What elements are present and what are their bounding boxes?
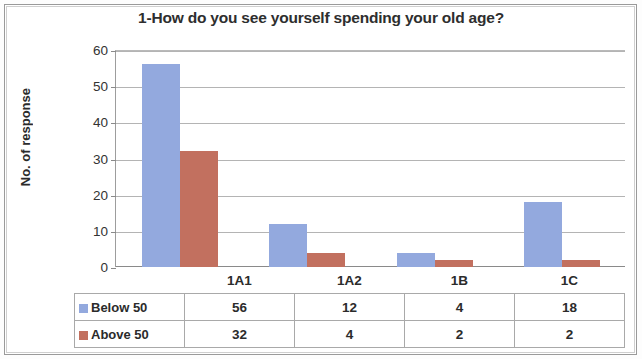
y-axis-tick-label: 20 bbox=[93, 187, 108, 202]
legend-label-above-50: Above 50 bbox=[91, 327, 149, 342]
cell-above50-1b: 2 bbox=[405, 321, 515, 348]
cell-below50-1c: 18 bbox=[515, 294, 625, 321]
column-header-1a1: 1A1 bbox=[185, 267, 295, 294]
column-header-1b: 1B bbox=[405, 267, 515, 294]
cell-above50-1c: 2 bbox=[515, 321, 625, 348]
y-axis-tick-label: 40 bbox=[93, 115, 108, 130]
y-axis-tick-label: 30 bbox=[93, 151, 108, 166]
column-header-1a2: 1A2 bbox=[295, 267, 405, 294]
bar-group-1a2 bbox=[244, 51, 372, 267]
cell-below50-1a1: 56 bbox=[185, 294, 295, 321]
data-table: 1A1 1A2 1B 1C Below 50 56 12 4 18 Above … bbox=[74, 267, 625, 348]
y-axis-title: No. of response bbox=[18, 88, 40, 186]
y-axis-tick-labels: 0102030405060 bbox=[72, 50, 108, 267]
bar-group-1a1 bbox=[116, 51, 244, 267]
bar-group-1c bbox=[499, 51, 627, 267]
red-square-icon bbox=[79, 331, 88, 340]
bar-below-50-1a2 bbox=[269, 224, 307, 267]
chart-container: 1-How do you see yourself spending your … bbox=[0, 0, 642, 359]
bar-above-50-1a1 bbox=[180, 151, 218, 267]
table-row: Below 50 56 12 4 18 bbox=[75, 294, 625, 321]
bar-group-1b bbox=[371, 51, 499, 267]
bar-above-50-1a2 bbox=[307, 253, 345, 267]
legend-item-below-50: Below 50 bbox=[75, 294, 185, 321]
bar-above-50-1b bbox=[435, 260, 473, 267]
chart-title: 1-How do you see yourself spending your … bbox=[0, 9, 642, 27]
blue-square-icon bbox=[79, 304, 88, 313]
table-header-row: 1A1 1A2 1B 1C bbox=[75, 267, 625, 294]
plot-area bbox=[115, 50, 625, 267]
cell-above50-1a2: 4 bbox=[295, 321, 405, 348]
bar-below-50-1c bbox=[524, 202, 562, 267]
cell-below50-1a2: 12 bbox=[295, 294, 405, 321]
table-corner-cell bbox=[75, 267, 185, 294]
legend-item-above-50: Above 50 bbox=[75, 321, 185, 348]
cell-above50-1a1: 32 bbox=[185, 321, 295, 348]
y-axis-tick-label: 60 bbox=[93, 43, 108, 58]
bar-above-50-1c bbox=[562, 260, 600, 267]
table-row: Above 50 32 4 2 2 bbox=[75, 321, 625, 348]
bar-below-50-1b bbox=[397, 253, 435, 267]
legend-label-below-50: Below 50 bbox=[91, 300, 147, 315]
bar-below-50-1a1 bbox=[142, 64, 180, 267]
column-header-1c: 1C bbox=[515, 267, 625, 294]
y-axis-tick-label: 10 bbox=[93, 223, 108, 238]
cell-below50-1b: 4 bbox=[405, 294, 515, 321]
y-axis-tick-label: 50 bbox=[93, 79, 108, 94]
